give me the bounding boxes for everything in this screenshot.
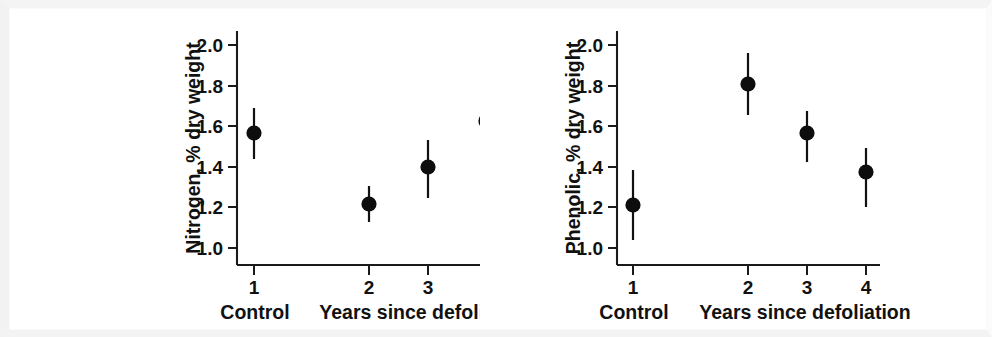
x-axis-caption-control-phenolic: Control (599, 301, 668, 323)
x-axis-caption-years-phenolic: Years since defoliation (699, 301, 910, 323)
data-marker (361, 196, 376, 211)
y-ticks-nitrogen (228, 45, 237, 248)
data-marker (799, 125, 814, 140)
x-tick-label: 3 (802, 277, 813, 298)
y-tick-label: 2.0 (577, 35, 603, 56)
x-ticks-phenolic (633, 265, 866, 275)
y-tick-label: 1.8 (577, 76, 603, 97)
figure-root: Nitrogen, % dry weight 2.0 1.8 1.6 1.4 1… (0, 0, 992, 337)
x-tick-label: 4 (861, 277, 872, 298)
phenolic-plot-svg: Phenolic, % dry weight 2.0 1.8 1.6 1.4 1… (380, 0, 992, 337)
y-tick-label: 1.2 (197, 197, 223, 218)
y-tick-label: 2.0 (197, 35, 223, 56)
x-tick-label: 2 (364, 277, 375, 298)
data-marker (625, 197, 640, 212)
data-point-group-nitrogen-2 (361, 186, 376, 222)
x-tick-labels-phenolic: 1 2 3 4 (628, 277, 872, 298)
data-point-group-phenolic-3 (799, 111, 814, 162)
y-tick-label: 1.6 (577, 116, 603, 137)
y-tick-label: 1.4 (197, 157, 224, 178)
data-point-group-phenolic-2 (740, 53, 755, 115)
x-tick-label: 1 (249, 277, 260, 298)
data-point-group-nitrogen-1 (246, 108, 261, 159)
y-tick-label: 1.6 (197, 116, 223, 137)
data-marker (246, 125, 261, 140)
x-tick-label: 2 (743, 277, 754, 298)
y-axis-title-phenolic: Phenolic, % dry weight (562, 41, 584, 254)
data-marker (858, 164, 873, 179)
chart-panel-phenolic: Phenolic, % dry weight 2.0 1.8 1.6 1.4 1… (380, 0, 860, 337)
y-tick-label: 1.2 (577, 197, 603, 218)
y-ticks-phenolic (608, 45, 617, 248)
data-marker (740, 76, 755, 91)
y-tick-label: 1.8 (197, 76, 223, 97)
y-axis-title-nitrogen: Nitrogen, % dry weight (182, 42, 204, 254)
x-axis-caption-control-nitrogen: Control (220, 301, 289, 323)
y-tick-label: 1.4 (577, 157, 604, 178)
y-tick-label: 1.0 (577, 238, 603, 259)
data-point-group-phenolic-4 (858, 148, 873, 207)
data-point-group-phenolic-1 (625, 170, 640, 240)
y-tick-label: 1.0 (197, 238, 223, 259)
x-tick-label: 1 (628, 277, 639, 298)
